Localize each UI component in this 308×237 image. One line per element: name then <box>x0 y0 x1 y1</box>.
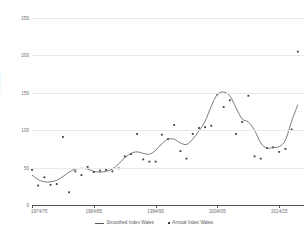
data-point <box>50 184 52 186</box>
data-point <box>99 170 101 172</box>
legend-item[interactable]: Smoothed Index Wales <box>95 220 154 226</box>
y-axis-tick-label: 150 <box>21 90 29 95</box>
x-axis-tick <box>32 205 33 208</box>
data-point <box>186 158 188 160</box>
y-axis-tick-label: 0 <box>26 203 29 208</box>
data-point <box>74 170 76 172</box>
data-series-layer <box>32 18 304 205</box>
data-point <box>149 161 151 163</box>
data-point <box>204 126 206 128</box>
data-point <box>173 124 175 126</box>
data-point <box>229 99 231 101</box>
data-point <box>56 183 58 185</box>
data-point <box>31 169 33 171</box>
data-point <box>210 125 212 127</box>
gridline <box>32 18 304 19</box>
data-point <box>235 133 237 135</box>
x-axis-tick <box>156 205 157 208</box>
data-point <box>278 151 280 153</box>
y-axis-tick-label: 100 <box>21 128 29 133</box>
data-point <box>260 158 262 160</box>
data-point <box>241 121 243 123</box>
x-axis-tick-label: 2004/05 <box>209 209 226 214</box>
data-point <box>223 106 225 108</box>
y-axis-tick-labels: 050100150200250 <box>0 0 32 237</box>
legend-line-swatch-icon <box>95 223 104 224</box>
data-point <box>247 95 249 97</box>
data-point <box>136 133 138 135</box>
plot-area <box>32 18 304 205</box>
annual-index-points <box>31 51 299 193</box>
data-point <box>192 133 194 135</box>
legend-label: Annual Index Wales <box>172 220 213 226</box>
data-point <box>198 127 200 129</box>
gridline <box>32 93 304 94</box>
x-axis-tick-label: 1984/85 <box>86 209 103 214</box>
data-point <box>43 176 45 178</box>
y-axis-title: Width Index <box>0 71 1 94</box>
data-point <box>285 148 287 150</box>
x-axis-tick-label: 2014/15 <box>271 209 288 214</box>
x-axis-tick-label: 1994/95 <box>147 209 164 214</box>
x-axis-line <box>32 205 304 206</box>
legend-marker-swatch-icon <box>168 222 170 224</box>
gridline <box>32 130 304 131</box>
data-point <box>254 155 256 157</box>
data-point <box>297 51 299 53</box>
x-axis-tick-label: 1974/75 <box>31 209 48 214</box>
data-point <box>105 169 107 171</box>
legend-item[interactable]: Annual Index Wales <box>168 220 213 226</box>
data-point <box>155 161 157 163</box>
data-point <box>179 150 181 152</box>
x-axis-tick <box>94 205 95 208</box>
y-axis-tick-label: 200 <box>21 53 29 58</box>
data-point <box>111 170 113 172</box>
data-point <box>37 185 39 187</box>
y-axis-tick-label: 50 <box>24 165 29 170</box>
chart-container: 050100150200250 Width Index Smoothed Ind… <box>0 0 308 237</box>
x-axis-tick <box>279 205 280 208</box>
data-point <box>81 174 83 176</box>
legend-label: Smoothed Index Wales <box>106 220 153 226</box>
data-point <box>68 191 70 193</box>
data-point <box>62 136 64 138</box>
gridline <box>32 55 304 56</box>
data-point <box>161 134 163 136</box>
y-axis-tick-label: 250 <box>21 16 29 21</box>
data-point <box>142 158 144 160</box>
gridline <box>32 168 304 169</box>
chart-legend: Smoothed Index WalesAnnual Index Wales <box>0 220 308 226</box>
x-axis-tick <box>217 205 218 208</box>
